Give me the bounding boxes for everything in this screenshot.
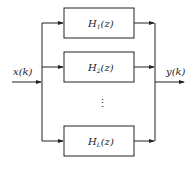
block-label-2: H2(z) [87, 62, 114, 74]
block-label-1: H1(z) [87, 18, 114, 30]
block-label-L: HL(z) [87, 136, 114, 148]
ellipsis: ⋮ [97, 97, 108, 110]
output-label: y(k) [165, 66, 186, 77]
parallel-filter-diagram: x(k) y(k) H1(z) H2(z) HL(z) ⋮ [0, 0, 195, 169]
input-label: x(k) [13, 66, 33, 77]
